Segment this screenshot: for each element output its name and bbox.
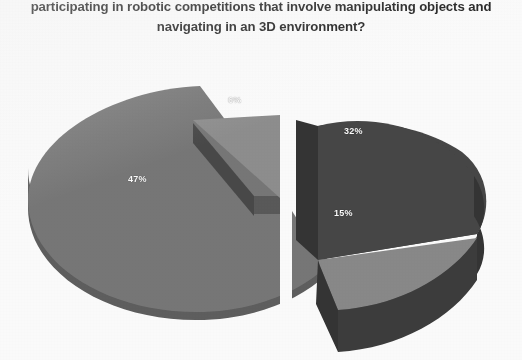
pie-chart-svg	[0, 48, 522, 360]
pie-slice-side-32-left	[296, 120, 318, 260]
chart-title-line-1: participating in robotic competitions th…	[18, 0, 504, 17]
pie-chart: 47% 32% 15% 6%	[0, 48, 522, 360]
chart-title-line-2: navigating in an 3D environment?	[18, 17, 504, 37]
pie-explode-gap	[280, 108, 292, 348]
pie-slice-rim-6	[254, 196, 280, 214]
pie-slice-arc-32	[318, 121, 484, 260]
chart-page: participating in robotic competitions th…	[0, 0, 522, 360]
chart-title: participating in robotic competitions th…	[0, 0, 522, 37]
